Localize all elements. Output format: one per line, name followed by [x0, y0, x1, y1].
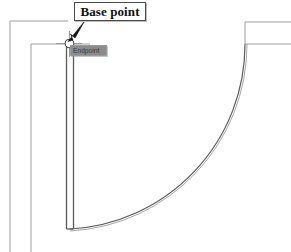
- base-point-callout: Base point: [74, 2, 146, 21]
- endpoint-osnap-tooltip-label: Endpoint: [73, 47, 99, 54]
- right-wall-lines: [245, 22, 291, 44]
- cad-drawing-canvas[interactable]: [0, 0, 291, 252]
- door-panel: [67, 43, 74, 229]
- inner-wall-lines: [31, 44, 90, 252]
- door-swing-arc: [70, 44, 247, 231]
- endpoint-osnap-tooltip: Endpoint: [70, 45, 107, 56]
- base-point-callout-label: Base point: [80, 5, 139, 18]
- outer-wall-lines: [10, 21, 68, 252]
- cad-screenshot: Base point Endpoint: [0, 0, 291, 252]
- swing-arc-outer: [70, 44, 245, 229]
- leader-arrowhead: [68, 22, 84, 42]
- callout-leader-arrow-icon: [68, 22, 84, 42]
